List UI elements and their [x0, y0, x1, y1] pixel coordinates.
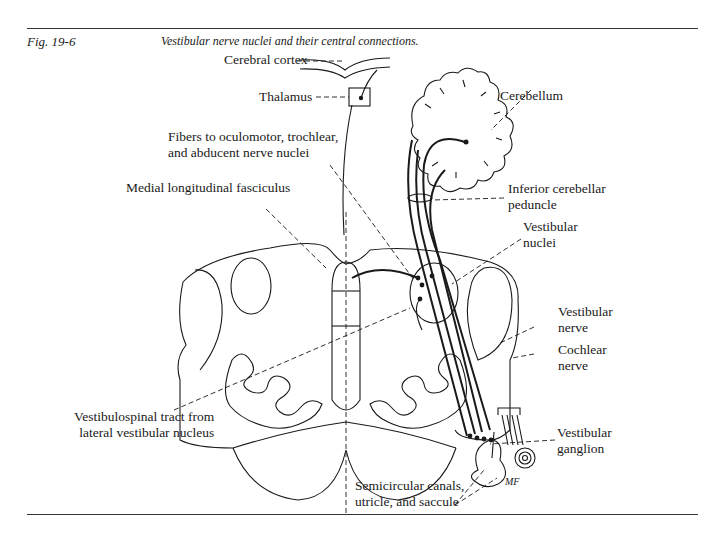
- label-thalamus: Thalamus: [259, 89, 312, 105]
- artist-initials: MF: [505, 474, 519, 490]
- label-cerebral-cortex: Cerebral cortex: [224, 52, 308, 68]
- label-vestibular-ganglion: Vestibular ganglion: [557, 425, 612, 457]
- label-vestibular-nerve: Vestibular nerve: [558, 304, 613, 336]
- peduncle-ring: [408, 194, 432, 202]
- label-mlf: Medial longitudinal fasciculus: [126, 180, 290, 196]
- label-semicircular-canals: Semicircular canals, utricle, and saccul…: [355, 478, 464, 510]
- label-vestibular-nuclei: Vestibular nuclei: [523, 219, 578, 251]
- label-cerebellum: Cerebellum: [500, 88, 563, 104]
- label-cochlear-nerve: Cochlear nerve: [558, 342, 607, 374]
- brainstem-outline: [178, 212, 518, 515]
- label-fibers: Fibers to oculomotor, trochlear, and abd…: [168, 129, 338, 161]
- label-inferior-cerebellar-peduncle: Inferior cerebellar peduncle: [508, 181, 606, 213]
- cerebellum-shape: [411, 68, 513, 191]
- label-vestibulospinal-tract: Vestibulospinal tract from lateral vesti…: [74, 409, 214, 441]
- vestibular-diagram: [0, 0, 720, 533]
